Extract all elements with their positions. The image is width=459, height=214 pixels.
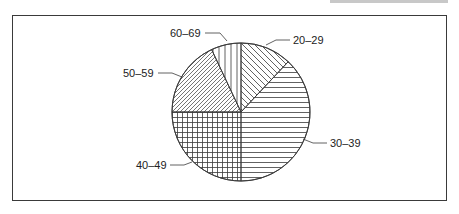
label-40-49: 40–49 [136, 159, 167, 171]
pie-slices [172, 43, 310, 181]
pie-chart: 60–69 20–29 50–59 30–39 40–49 [0, 0, 459, 214]
leader-line-30-39 [303, 139, 327, 143]
label-60-69: 60–69 [170, 27, 201, 39]
leader-line-20-29 [266, 40, 290, 45]
pie-slice-40-49 [172, 112, 241, 181]
label-30-39: 30–39 [330, 137, 361, 149]
label-50-59: 50–59 [123, 67, 154, 79]
leader-line-50-59 [158, 73, 182, 77]
label-20-29: 20–29 [293, 34, 324, 46]
leader-line-60-69 [205, 33, 227, 41]
leader-line-40-49 [170, 162, 192, 165]
